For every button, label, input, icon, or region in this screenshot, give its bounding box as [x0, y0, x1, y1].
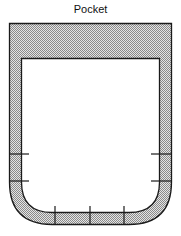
pocket-diagram — [0, 0, 181, 236]
pocket-inner-area — [22, 59, 160, 213]
